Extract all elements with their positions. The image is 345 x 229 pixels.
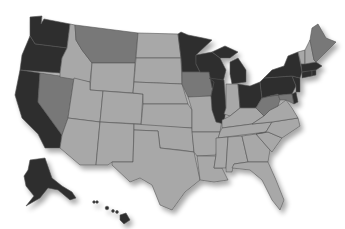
state-ak[interactable] (24, 158, 76, 206)
state-fl[interactable] (232, 162, 284, 210)
state-sd[interactable] (134, 58, 182, 84)
state-hi[interactable] (93, 201, 130, 224)
state-ia[interactable] (182, 72, 214, 97)
state-ri[interactable] (312, 70, 316, 76)
state-wa[interactable] (30, 16, 70, 48)
map-svg (0, 0, 345, 229)
state-nd[interactable] (136, 33, 181, 58)
state-ny[interactable] (264, 52, 302, 78)
state-ks[interactable] (141, 104, 192, 128)
state-ms[interactable] (214, 137, 228, 168)
state-wy[interactable] (90, 63, 135, 93)
state-co[interactable] (100, 91, 143, 124)
state-az[interactable] (60, 118, 100, 165)
state-me[interactable] (310, 24, 336, 62)
us-choropleth-map (0, 0, 345, 229)
state-nm[interactable] (96, 122, 134, 165)
